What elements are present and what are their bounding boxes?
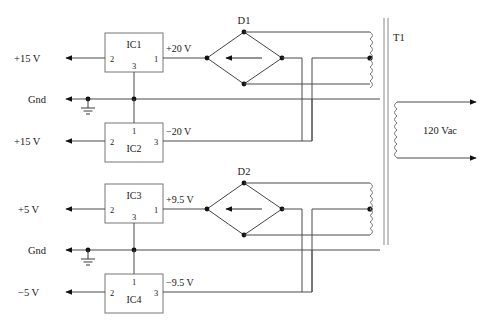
rail-label-bottom-positive: +5 V [18,204,40,215]
t1-label: T1 [393,32,405,43]
bridge-rectifier-d1: D1 [205,15,285,86]
ic4-pin-left: 2 [110,288,114,298]
voltage-label-minus20: −20 V [166,126,192,137]
ic1-pin-bottom: 3 [132,61,136,71]
d1-label: D1 [238,15,251,26]
ic4-pin-top: 1 [132,277,136,287]
regulator-ic1: IC1 2 1 3 [105,33,163,72]
ic3-label: IC3 [127,190,142,201]
earth-ground-icon-bottom [81,250,95,265]
voltage-label-plus20: +20 V [166,43,192,54]
secondary-voltage-label: 120 Vac [423,125,457,136]
regulator-ic2: IC2 2 3 1 [105,123,163,162]
circuit-schematic: IC1 2 1 3 +15 V +20 V Gnd IC2 2 3 1 +15 … [0,0,496,324]
earth-ground-icon-top [81,99,95,114]
d2-node-left [205,207,210,212]
ic2-pin-left: 2 [110,137,114,147]
ic4-pin-right: 3 [154,288,158,298]
ic1-pin-left: 2 [110,54,114,64]
ic3-pin-left: 2 [110,205,114,215]
regulator-ic3: IC3 2 1 3 [105,184,163,223]
voltage-label-minus9p5: −9.5 V [166,277,194,288]
ic3-pin-bottom: 3 [132,212,136,222]
rail-label-bottom-ground: Gnd [28,245,47,256]
ic2-pin-right: 3 [154,137,158,147]
ic3-pin-right: 1 [154,205,158,215]
rail-label-top-positive: +15 V [14,53,41,64]
transformer-t1: T1 120 Vac [384,18,476,245]
ic4-label: IC4 [127,294,142,305]
bridge-rectifier-d2: D2 [205,166,285,237]
ic2-label: IC2 [127,143,142,154]
t1-secondary-coil [395,102,398,158]
voltage-label-plus9p5: +9.5 V [166,194,194,205]
d2-label: D2 [238,166,251,177]
rail-label-top-negative: +15 V [14,136,41,147]
ic2-pin-top: 1 [132,126,136,136]
ic1-pin-right: 1 [154,54,158,64]
regulator-ic4: IC4 2 3 1 [105,274,163,313]
ic1-label: IC1 [127,39,142,50]
rail-label-bottom-negative: −5 V [18,287,40,298]
d1-node-left [205,56,210,61]
rail-label-top-ground: Gnd [28,94,47,105]
